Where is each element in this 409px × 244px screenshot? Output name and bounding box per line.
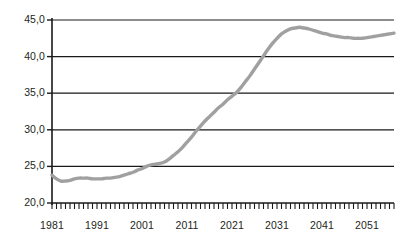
x-tick-label-1991: 1991 bbox=[77, 220, 117, 231]
y-tick-label-30,0: 30,0 bbox=[11, 124, 45, 135]
x-tick-label-2011: 2011 bbox=[167, 220, 207, 231]
gridlines bbox=[47, 20, 394, 203]
x-tick-label-2001: 2001 bbox=[122, 220, 162, 231]
x-tick-label-1981: 1981 bbox=[32, 220, 72, 231]
y-tick-label-35,0: 35,0 bbox=[11, 87, 45, 98]
data-line-series-1 bbox=[52, 27, 394, 181]
x-tick-label-2051: 2051 bbox=[347, 220, 387, 231]
chart-canvas bbox=[0, 0, 409, 244]
x-tick-label-2021: 2021 bbox=[212, 220, 252, 231]
line-chart: 20,025,030,035,040,045,0 198119912001201… bbox=[0, 0, 409, 244]
y-tick-label-45,0: 45,0 bbox=[11, 14, 45, 25]
x-axis-minor-ticks bbox=[52, 203, 394, 209]
x-tick-label-2041: 2041 bbox=[302, 220, 342, 231]
y-tick-label-25,0: 25,0 bbox=[11, 160, 45, 171]
y-tick-label-40,0: 40,0 bbox=[11, 51, 45, 62]
y-tick-label-20,0: 20,0 bbox=[11, 197, 45, 208]
x-tick-label-2031: 2031 bbox=[257, 220, 297, 231]
